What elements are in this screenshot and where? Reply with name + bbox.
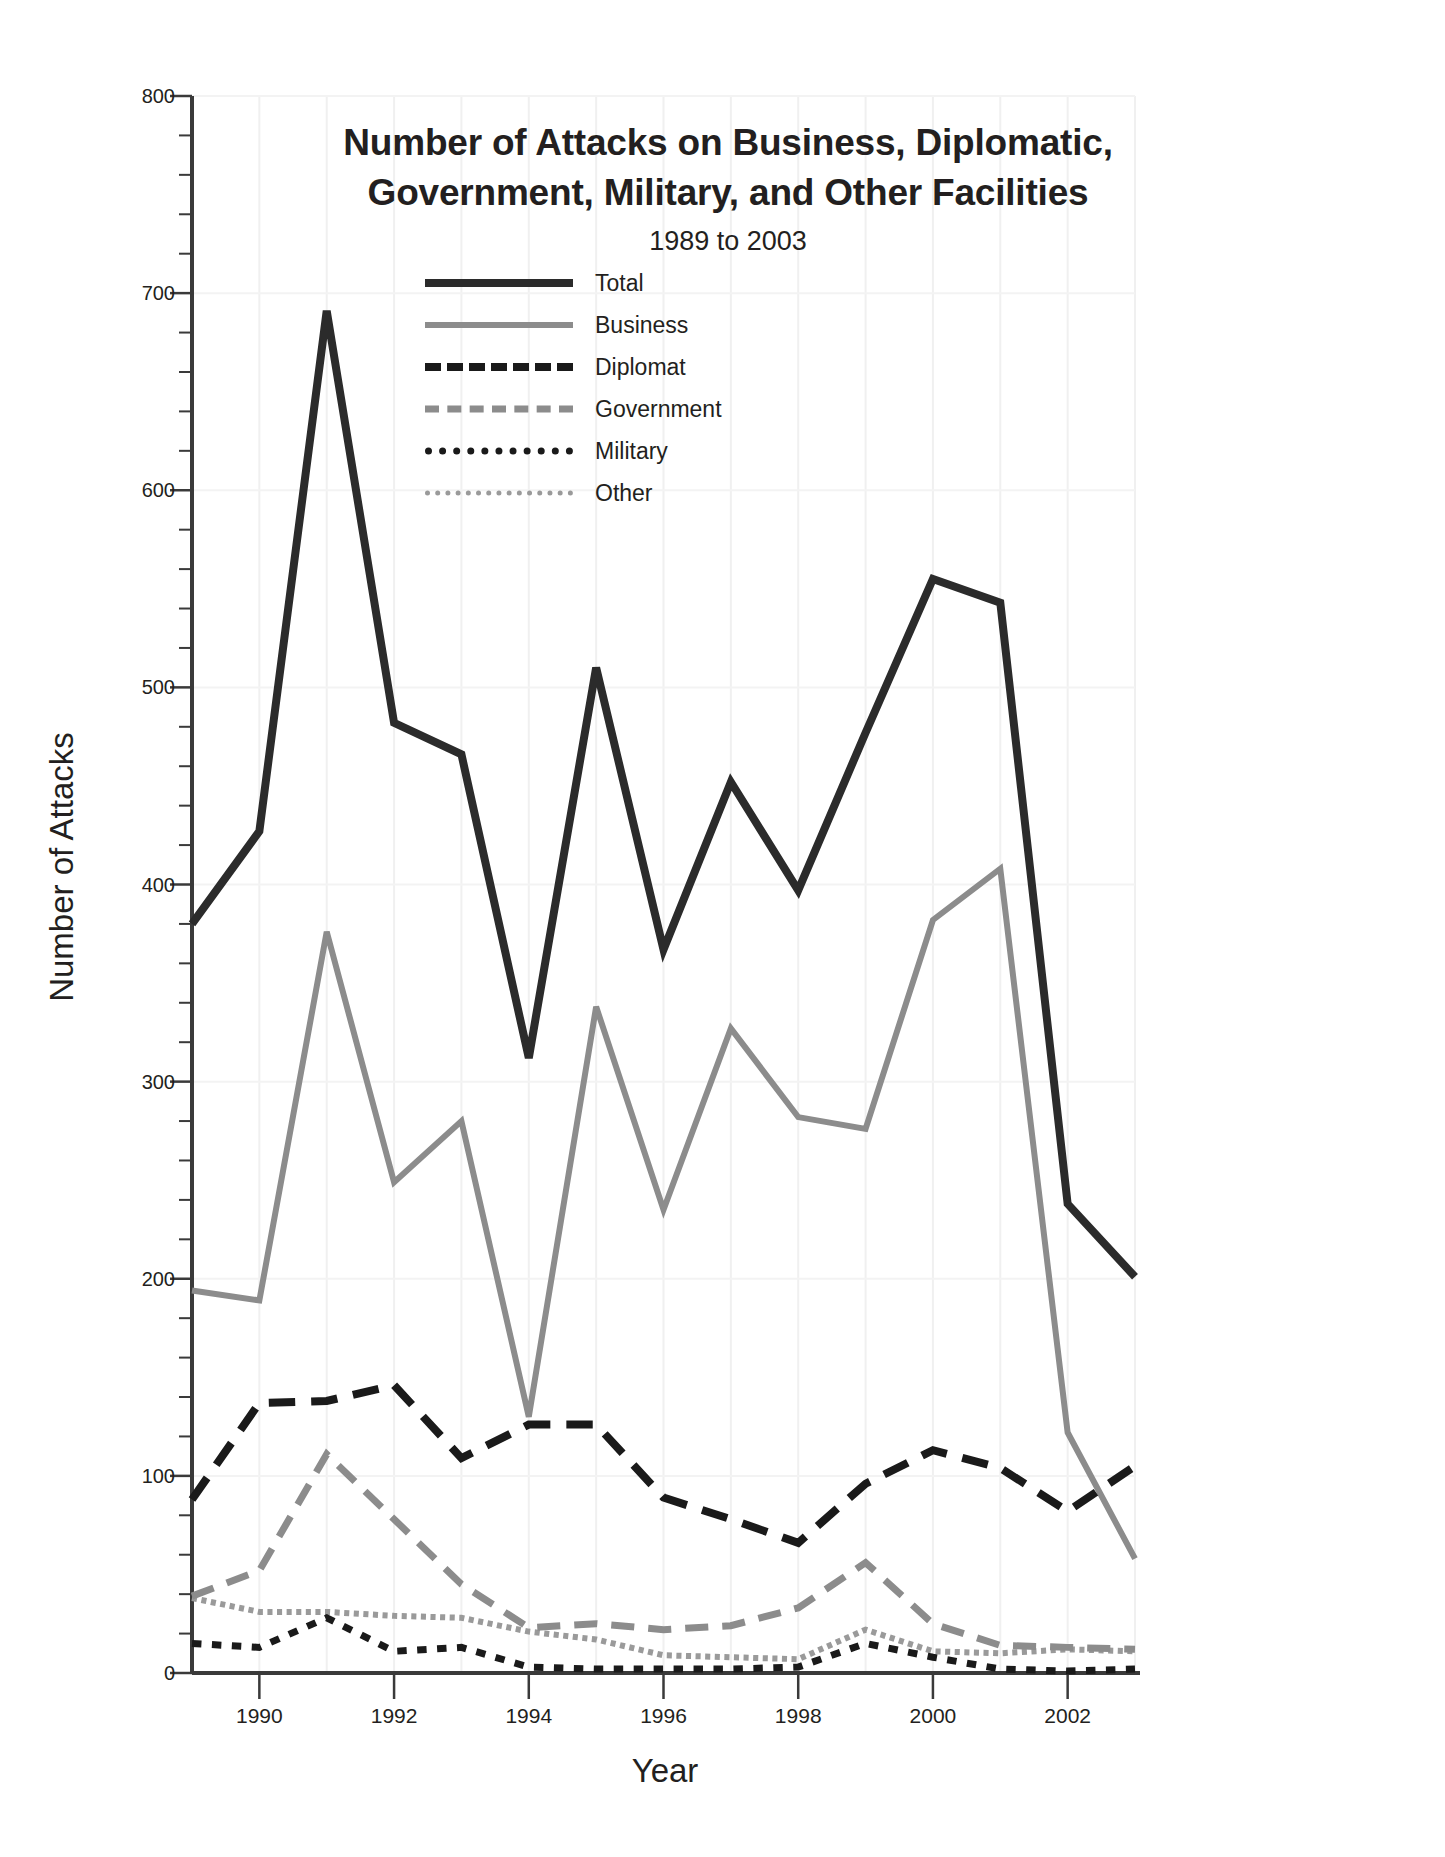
x-tick-label: 1992 [354,1704,434,1728]
chart-figure: Number of Attacks on Business, Diplomati… [0,0,1445,1857]
x-tick-label: 1994 [489,1704,569,1728]
y-axis-title: Number of Attacks [43,627,81,1107]
legend-item-government[interactable]: Government [425,388,845,430]
x-tick-label: 2000 [893,1704,973,1728]
x-tick-label: 2002 [1028,1704,1108,1728]
y-tick-label: 700 [105,282,175,305]
x-tick-label: 1990 [219,1704,299,1728]
legend-item-business[interactable]: Business [425,304,845,346]
legend-swatch-military [425,444,573,458]
legend-item-military[interactable]: Military [425,430,845,472]
legend-label-total: Total [595,270,644,297]
legend-swatch-government [425,402,573,416]
x-axis-tick-labels: 1990199219941996199820002002 [0,1690,1445,1750]
y-tick-label: 800 [105,85,175,108]
y-tick-label: 600 [105,479,175,502]
y-axis-tick-labels: 0100200300400500600700800 [105,0,175,1857]
y-tick-label: 200 [105,1267,175,1290]
y-tick-label: 500 [105,676,175,699]
legend-label-diplomat: Diplomat [595,354,686,381]
legend-item-other[interactable]: Other [425,472,845,514]
legend-label-business: Business [595,312,688,339]
x-axis-title: Year [495,1752,835,1790]
legend-swatch-diplomat [425,360,573,374]
y-tick-label: 300 [105,1070,175,1093]
x-tick-label: 1996 [624,1704,704,1728]
y-tick-label: 0 [105,1662,175,1685]
y-tick-label: 100 [105,1464,175,1487]
y-tick-label: 400 [105,873,175,896]
x-tick-label: 1998 [758,1704,838,1728]
legend-label-other: Other [595,480,653,507]
legend-swatch-business [425,318,573,332]
chart-legend: Total Business Diplomat Government Milit… [425,262,845,514]
legend-item-diplomat[interactable]: Diplomat [425,346,845,388]
legend-swatch-other [425,486,573,500]
legend-swatch-total [425,276,573,290]
legend-label-military: Military [595,438,668,465]
legend-item-total[interactable]: Total [425,262,845,304]
legend-label-government: Government [595,396,722,423]
